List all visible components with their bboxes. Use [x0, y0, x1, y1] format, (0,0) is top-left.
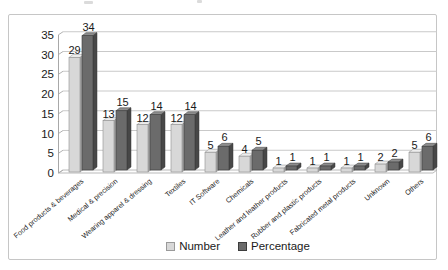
bar-3-percentage-side	[195, 112, 199, 170]
label-7-number: 1	[309, 155, 315, 167]
bar-0-percentage-front	[82, 36, 93, 170]
bar-5-percentage-side	[263, 147, 267, 170]
y-tick-label-30: 30	[41, 49, 54, 61]
bar-3-number-front	[171, 125, 182, 172]
label-8-percentage: 1	[357, 151, 363, 163]
category-label-9: Unknown	[363, 177, 392, 203]
bar-0-number-front	[69, 57, 80, 172]
legend-swatch-number	[166, 242, 175, 251]
y-tick-label-25: 25	[41, 68, 54, 80]
bar-8-number-front	[341, 168, 352, 172]
bar-2-number-front	[137, 125, 148, 172]
bar-10-percentage-front	[422, 146, 433, 170]
bar-7-percentage-front	[320, 166, 331, 170]
label-9-percentage: 2	[391, 147, 397, 159]
y-tick-label-5: 5	[48, 147, 54, 159]
label-1-number: 13	[102, 108, 114, 120]
y-tick-10	[59, 131, 64, 134]
label-3-percentage: 14	[184, 100, 196, 112]
bar-6-percentage-front	[286, 166, 297, 170]
bar-6-number-front	[273, 168, 284, 172]
label-0-percentage: 34	[82, 21, 94, 33]
y-tick-label-20: 20	[41, 88, 54, 100]
y-tick-label-10: 10	[41, 128, 54, 140]
bar-9-number-front	[375, 164, 386, 172]
label-3-number: 12	[170, 112, 182, 124]
bar-1-percentage-side	[127, 108, 131, 170]
bar-10-percentage-side	[433, 143, 437, 170]
category-label-10: Others	[403, 176, 426, 197]
label-9-number: 2	[377, 151, 383, 163]
bar-7-number-front	[307, 168, 318, 172]
legend-label-percentage: Percentage	[251, 241, 310, 253]
category-label-5: Chemicals	[224, 176, 256, 205]
label-6-number: 1	[275, 155, 281, 167]
label-7-percentage: 1	[323, 151, 329, 163]
label-6-percentage: 1	[289, 151, 295, 163]
legend-item-number: Number	[166, 241, 220, 253]
category-label-8: Fabricated metal products	[288, 176, 358, 237]
label-0-number: 29	[68, 44, 80, 56]
label-2-number: 12	[136, 112, 148, 124]
category-label-3: Textiles	[163, 176, 187, 199]
bar-1-number-front	[103, 121, 114, 172]
y-tick-label-35: 35	[41, 29, 54, 41]
bar-4-percentage-side	[229, 143, 233, 170]
y-tick-25	[59, 71, 64, 74]
legend-swatch-percentage	[238, 242, 247, 251]
bar-10-number-front	[409, 152, 420, 172]
bar-2-percentage-side	[161, 112, 165, 170]
bar-4-percentage-front	[218, 146, 229, 170]
y-tick-35	[59, 32, 64, 35]
label-2-percentage: 14	[150, 100, 162, 112]
label-5-percentage: 5	[255, 135, 261, 147]
bar-1-percentage-front	[116, 111, 127, 170]
y-tick-label-15: 15	[41, 108, 54, 120]
label-1-percentage: 15	[116, 96, 128, 108]
label-4-percentage: 6	[221, 131, 227, 143]
category-label-4: IT Software	[187, 177, 221, 207]
bar-0-percentage-side	[93, 33, 97, 170]
label-8-number: 1	[343, 155, 349, 167]
label-4-number: 5	[207, 139, 213, 151]
y-tick-15	[59, 111, 64, 114]
bar-2-percentage-front	[150, 115, 161, 170]
figure-canvas: 051015202530352934Food products & bevera…	[0, 0, 448, 270]
bar-8-percentage-front	[354, 166, 365, 170]
chart-legend: Number Percentage	[8, 241, 438, 253]
bar-5-number-front	[239, 156, 250, 172]
bar-3-percentage-front	[184, 115, 195, 170]
label-10-percentage: 6	[425, 131, 431, 143]
bar-9-percentage-front	[388, 162, 399, 170]
bar-5-percentage-front	[252, 150, 263, 170]
label-5-number: 4	[241, 143, 247, 155]
legend-item-percentage: Percentage	[238, 241, 310, 253]
legend-label-number: Number	[179, 241, 220, 253]
label-10-number: 5	[411, 139, 417, 151]
y-tick-30	[59, 52, 64, 55]
y-tick-20	[59, 91, 64, 94]
y-tick-label-0: 0	[48, 167, 54, 179]
y-tick-5	[59, 150, 64, 153]
category-label-2: Wearing apparel & dressing	[80, 177, 154, 241]
bar-chart: 051015202530352934Food products & bevera…	[0, 0, 448, 270]
bar-4-number-front	[205, 152, 216, 172]
